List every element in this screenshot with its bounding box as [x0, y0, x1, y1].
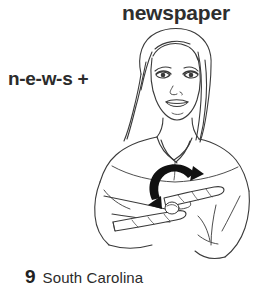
page-title: newspaper: [122, 1, 230, 25]
caption: 9 South Carolina: [25, 266, 143, 288]
caption-label: South Carolina: [43, 269, 144, 286]
sign-gloss-label: n-e-w-s +: [8, 68, 88, 90]
motion-arrow: [148, 164, 204, 209]
sign-language-newspaper-illustration: [0, 0, 275, 292]
caption-number: 9: [25, 266, 36, 288]
illustration-page: newspaper n-e-w-s + 9 South Carolina: [0, 0, 275, 292]
